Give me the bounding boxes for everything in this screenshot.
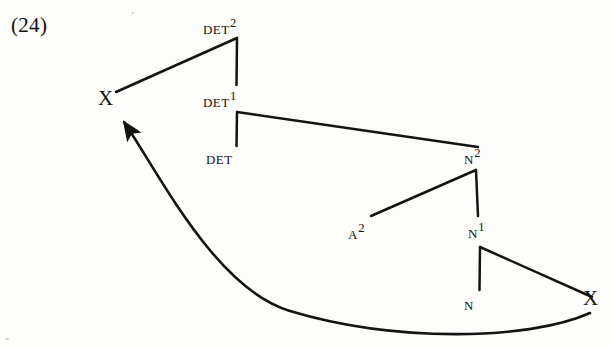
branch-n2-to-n1 xyxy=(476,170,478,216)
branch-n1-to-x-right xyxy=(480,247,592,297)
node-det2-bar: 2 xyxy=(230,16,236,30)
branch-n2-to-a2 xyxy=(371,170,476,216)
node-det1-base: DET xyxy=(203,90,229,111)
branch-n1-to-n xyxy=(480,247,481,290)
node-a2: A2 xyxy=(348,222,365,242)
node-a2-bar: 2 xyxy=(358,221,364,235)
branch-det2-to-det1 xyxy=(237,38,238,85)
node-n1-bar: 1 xyxy=(478,220,484,234)
tree-edges-layer xyxy=(0,0,612,346)
node-det1-bar: 1 xyxy=(230,89,236,103)
node-x-left: X xyxy=(98,88,113,109)
branch-det1-to-det xyxy=(237,112,238,146)
node-n1-base: N xyxy=(468,221,478,242)
node-det1: DET1 xyxy=(203,90,236,110)
node-n2: N2 xyxy=(464,147,481,167)
node-det2: DET2 xyxy=(203,17,236,37)
node-n2-base: N xyxy=(464,147,474,168)
syntax-tree-figure: (24) xyxy=(0,0,612,346)
branch-det2-to-x-left xyxy=(116,38,237,92)
branch-det1-to-n2 xyxy=(237,112,478,147)
node-n1: N1 xyxy=(468,221,485,241)
node-x-left-base: X xyxy=(98,86,113,110)
node-det: DET xyxy=(206,148,232,167)
node-n: N xyxy=(464,294,474,313)
node-x-right-base: X xyxy=(583,286,598,310)
node-x-right: X xyxy=(583,288,598,309)
node-n-base: N xyxy=(464,293,474,314)
node-det2-base: DET xyxy=(203,17,229,38)
node-a2-base: A xyxy=(348,222,358,243)
node-det-base: DET xyxy=(206,147,232,168)
node-n2-bar: 2 xyxy=(474,146,480,160)
